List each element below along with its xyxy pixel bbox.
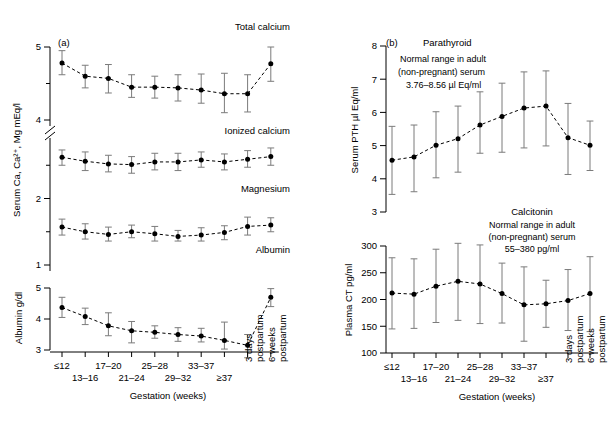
data-point <box>522 302 527 307</box>
series-line <box>62 297 271 345</box>
series-label-ionized-calcium: Ionized calcium <box>225 125 291 136</box>
scientific-figure: 5421Serum Ca, Ca²⁺, Mg mEq/l(a)Total cal… <box>0 0 616 431</box>
data-point <box>268 223 273 228</box>
data-point <box>199 233 204 238</box>
series-label-parathyroid: Parathyroid <box>423 37 472 48</box>
data-point <box>268 154 273 159</box>
data-point <box>152 159 157 164</box>
data-point <box>478 281 483 286</box>
pth-y-axis-title: Serum PTH µl Eq/ml <box>349 87 360 174</box>
panel-a-label: (a) <box>58 37 70 48</box>
pth-note-line3: 3.76–8.56 µl Eq/ml <box>406 80 481 90</box>
data-point <box>176 332 181 337</box>
x-tick-label: 25–28 <box>142 360 168 371</box>
x-tick-label-3days: 3 days <box>563 335 574 363</box>
y-tick-label: 300 <box>361 240 377 251</box>
figure-root: 5421Serum Ca, Ca²⁺, Mg mEq/l(a)Total cal… <box>0 0 616 431</box>
data-point <box>83 74 88 79</box>
ct-y-axis-title: Plasma CT pg/ml <box>343 264 354 337</box>
data-point <box>412 154 417 159</box>
data-point <box>176 234 181 239</box>
data-point <box>456 279 461 284</box>
y-tick-label: 5 <box>372 140 377 151</box>
x-tick-label: 13–16 <box>72 372 98 383</box>
y-tick-label: 4 <box>36 114 41 125</box>
series-ionized-calcium <box>59 148 275 173</box>
y-tick-label: 8 <box>372 40 377 51</box>
data-point <box>390 158 395 163</box>
y-tick-label: 100 <box>361 347 377 358</box>
series-label-magnesium: Magnesium <box>241 183 290 194</box>
pth-note-line1: Normal range in adult <box>400 54 487 64</box>
data-point <box>199 334 204 339</box>
panel-b-label: (b) <box>386 37 398 48</box>
y-tick-label: 1 <box>36 259 41 270</box>
data-point <box>152 231 157 236</box>
y-tick-label: 5 <box>36 282 41 293</box>
data-point <box>268 295 273 300</box>
data-point <box>268 61 273 66</box>
series-line <box>62 63 271 94</box>
data-point <box>588 143 593 148</box>
x-tick-label-6weeks-2: postpartum <box>277 314 288 362</box>
x-tick-label: ≥37 <box>217 372 233 383</box>
data-point <box>456 136 461 141</box>
data-point <box>222 159 227 164</box>
data-point <box>106 76 111 81</box>
data-point <box>500 291 505 296</box>
x-tick-label-6weeks: 6 weeks <box>266 327 277 362</box>
data-point <box>176 85 181 90</box>
data-point <box>106 323 111 328</box>
y-tick-label: 7 <box>372 74 377 85</box>
x-tick-label-6weeks-2: postpartum <box>596 315 607 363</box>
ct-note-line3: 55–380 pg/ml <box>505 244 560 254</box>
data-point <box>106 232 111 237</box>
x-tick-label: 17–20 <box>95 360 121 371</box>
data-point <box>83 159 88 164</box>
data-point <box>434 143 439 148</box>
data-point <box>60 225 65 230</box>
y-tick-label: 150 <box>361 321 377 332</box>
x-tick-label: 33–37 <box>188 360 214 371</box>
data-point <box>152 85 157 90</box>
y-tick-label: 2 <box>36 193 41 204</box>
data-point <box>245 224 250 229</box>
data-point <box>222 91 227 96</box>
data-point <box>434 284 439 289</box>
data-point <box>222 338 227 343</box>
series-calcitonin <box>389 243 594 341</box>
x-tick-label-3days-2: postpartum <box>254 314 265 362</box>
series-label-total-calcium: Total calcium <box>235 21 290 32</box>
data-point <box>83 229 88 234</box>
data-point <box>129 229 134 234</box>
panel-a-y-axis-title: Serum Ca, Ca²⁺, Mg mEq/l <box>11 103 22 217</box>
data-point <box>60 155 65 160</box>
data-point <box>199 157 204 162</box>
x-tick-label: 21–24 <box>445 373 471 384</box>
data-point <box>478 123 483 128</box>
x-tick-label: 29–32 <box>489 373 515 384</box>
series-line <box>392 106 590 160</box>
data-point <box>500 114 505 119</box>
y-tick-label: 250 <box>361 267 377 278</box>
y-tick-label: 4 <box>372 173 377 184</box>
x-tick-label-3days: 3 days <box>243 334 254 362</box>
data-point <box>60 305 65 310</box>
data-point <box>152 330 157 335</box>
pth-note-line2: (non-pregnant) serum <box>398 67 485 77</box>
x-tick-label: ≤12 <box>54 360 70 371</box>
series-label-calcitonin: Calcitonin <box>511 206 553 217</box>
albumin-y-axis-title: Albumin g/dl <box>13 292 24 344</box>
x-tick-label-3days-2: postpartum <box>574 315 585 363</box>
data-point <box>245 157 250 162</box>
y-tick-label: 6 <box>372 107 377 118</box>
panel-b-x-axis-title: Gestation (weeks) <box>459 391 536 402</box>
panel-a-x-axis-title: Gestation (weeks) <box>130 390 207 401</box>
data-point <box>83 314 88 319</box>
data-point <box>176 159 181 164</box>
data-point <box>544 301 549 306</box>
x-tick-label: 17–20 <box>423 361 449 372</box>
x-tick-label: 25–28 <box>467 361 493 372</box>
y-tick-label: 4 <box>36 313 41 324</box>
series-line <box>392 281 590 305</box>
